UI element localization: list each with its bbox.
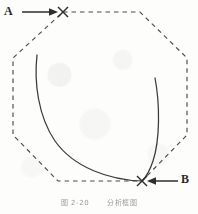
left-solid-curve <box>36 55 142 181</box>
right-solid-curve <box>142 78 159 181</box>
dashed-octagon-boundary <box>13 12 187 181</box>
arrow-right-icon <box>22 8 58 16</box>
figure-caption-title: 分析框图 <box>107 199 137 207</box>
figure-drawing <box>0 0 198 214</box>
point-label-a: A <box>4 5 13 17</box>
arrow-left-icon <box>147 177 178 185</box>
figure-caption: 图 2-20 分析框图 <box>0 199 198 208</box>
figure-container: A B 图 2-20 分析框图 <box>0 0 198 214</box>
figure-caption-number: 图 2-20 <box>61 199 90 207</box>
point-label-b: B <box>181 173 189 185</box>
